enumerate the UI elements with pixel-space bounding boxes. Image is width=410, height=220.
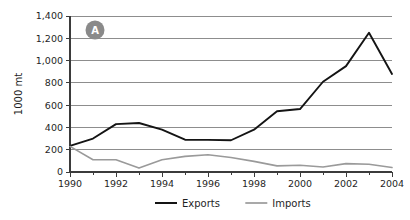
series-line-exports — [70, 33, 392, 146]
panel-label-badge: A — [86, 21, 105, 40]
axis-lines-group — [70, 16, 392, 172]
gridlines-group — [70, 16, 392, 150]
chart-container: 02004006008001,0001,2001,400 19901992199… — [0, 0, 410, 220]
chart-legend: ExportsImports — [155, 198, 311, 209]
y-tick-label: 200 — [45, 144, 63, 155]
x-tick-label: 1992 — [104, 178, 128, 189]
x-tick-labels-group: 19901992199419961998200020022004 — [58, 178, 404, 189]
x-tick-label: 2002 — [334, 178, 358, 189]
y-axis-title: 1000 mt — [13, 73, 24, 115]
y-tick-labels-group: 02004006008001,0001,2001,400 — [36, 10, 63, 177]
legend-label-imports: Imports — [272, 198, 310, 209]
x-tick-label: 1990 — [58, 178, 82, 189]
y-tick-label: 800 — [45, 77, 63, 88]
x-tick-label: 1996 — [196, 178, 220, 189]
panel-badge-letter: A — [91, 25, 99, 36]
y-tick-label: 0 — [57, 166, 63, 177]
legend-label-exports: Exports — [182, 198, 220, 209]
x-tick-label: 1994 — [150, 178, 174, 189]
x-tick-label: 2004 — [380, 178, 404, 189]
x-tick-label: 2000 — [288, 178, 312, 189]
y-tick-label: 600 — [45, 100, 63, 111]
y-tick-label: 1,400 — [36, 10, 63, 21]
y-tick-label: 1,200 — [36, 33, 63, 44]
line-chart: 02004006008001,0001,2001,400 19901992199… — [0, 0, 410, 220]
data-series-group — [70, 33, 392, 168]
y-axis-title-text: 1000 mt — [13, 73, 24, 115]
x-tick-label: 1998 — [242, 178, 266, 189]
tick-marks-group — [66, 16, 392, 177]
y-tick-label: 400 — [45, 122, 63, 133]
y-tick-label: 1,000 — [36, 55, 63, 66]
